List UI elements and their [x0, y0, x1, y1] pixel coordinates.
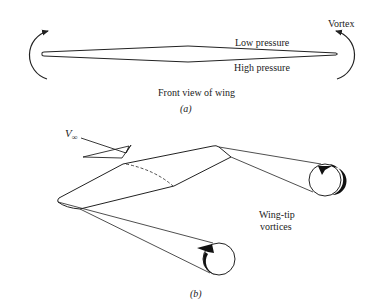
wing-vortex-diagram: Vortex Low pressure High pressure Front … [0, 0, 373, 305]
right-vortex-cone-bottom [231, 157, 313, 192]
panel-a-caption: (a) [180, 103, 192, 115]
hidden-root-line [126, 164, 173, 186]
wing-tip-label: Wing-tip [259, 209, 295, 220]
front-view-title: Front view of wing [158, 87, 235, 98]
left-vortex-cone-bottom [80, 209, 210, 273]
left-vortex-cone-top [58, 202, 213, 243]
low-pressure-label: Low pressure [235, 37, 290, 48]
vortex-label: Vortex [328, 18, 354, 29]
left-vortex-arrow-icon [29, 31, 48, 79]
wing-front-view [42, 46, 338, 62]
vortices-label: vortices [260, 221, 292, 232]
high-pressure-label: High pressure [234, 62, 290, 73]
right-vortex-cone-top [219, 147, 321, 164]
panel-a: Vortex Low pressure High pressure Front … [29, 18, 354, 115]
wing-planform [58, 146, 231, 209]
freestream-label: V∞ [65, 127, 78, 142]
panel-b: V∞ Wing-tip vortices (b) [58, 127, 347, 300]
freestream-arrow-icon [81, 138, 131, 158]
panel-b-caption: (b) [190, 288, 202, 300]
right-vortex-arrow-icon [336, 31, 355, 79]
